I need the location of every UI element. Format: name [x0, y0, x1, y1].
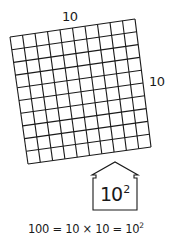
- ten-by-ten-grid: [10, 19, 151, 164]
- power-box-label: 102: [100, 184, 129, 204]
- equation-product: 10 × 10: [65, 222, 109, 236]
- power-base: 10: [100, 183, 122, 205]
- equation-power-exponent: 2: [139, 221, 143, 230]
- power-exponent: 2: [123, 183, 129, 196]
- grid-top-label: 10: [62, 10, 78, 23]
- grid-side-label: 10: [149, 75, 165, 88]
- equation: 100 = 10 × 10 = 102: [28, 222, 144, 236]
- grid-square-diagram: [0, 0, 177, 242]
- equation-result: 100: [28, 222, 49, 236]
- equation-power-base: 10: [125, 222, 139, 236]
- equals-sign: =: [113, 222, 122, 236]
- equals-sign: =: [52, 222, 61, 236]
